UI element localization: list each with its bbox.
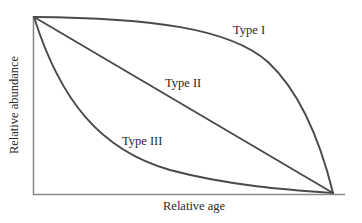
curve-type-2 bbox=[34, 17, 333, 193]
x-axis-label: Relative age bbox=[163, 200, 225, 213]
type-1-label: Type I bbox=[233, 24, 265, 37]
y-axis-label: Relative abundance bbox=[8, 56, 21, 154]
type-3-label: Type III bbox=[122, 135, 162, 148]
survivorship-chart bbox=[0, 0, 362, 223]
type-2-label: Type II bbox=[165, 77, 201, 90]
